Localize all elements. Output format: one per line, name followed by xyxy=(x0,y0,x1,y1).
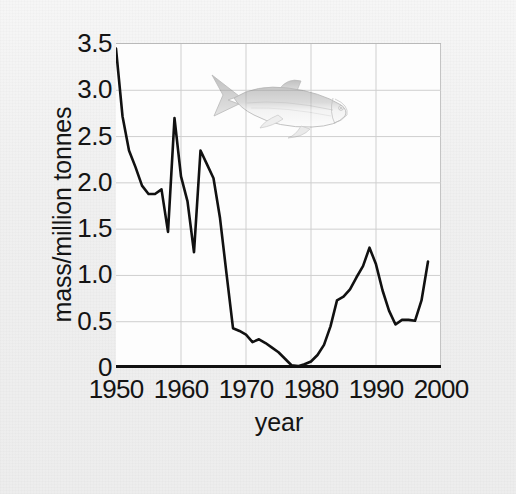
chart-figure: mass/million tonnes 00.51.01.52.02.53.03… xyxy=(0,0,516,494)
y-axis-tick-label: 1.5 xyxy=(42,213,112,244)
x-axis-tick-label: 2000 xyxy=(396,374,486,405)
y-axis-tick-label: 3.0 xyxy=(42,74,112,105)
y-axis-tick-labels: 00.51.01.52.02.53.03.5 xyxy=(34,0,112,494)
y-axis-tick-label: 2.5 xyxy=(42,120,112,151)
y-axis-tick-label: 0.5 xyxy=(42,305,112,336)
herring-fish-illustration-icon xyxy=(208,62,358,144)
y-axis-tick-label: 3.5 xyxy=(42,28,112,59)
y-axis-tick-label: 2.0 xyxy=(42,166,112,197)
x-axis-title: year xyxy=(116,408,442,437)
plot-area xyxy=(116,43,441,367)
y-axis-tick-label: 1.0 xyxy=(42,259,112,290)
